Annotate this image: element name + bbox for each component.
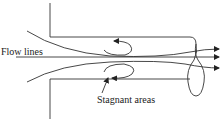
eddy-lower: [104, 64, 134, 78]
upper-wall: [50, 3, 196, 44]
stagnant-pointer: [102, 78, 108, 93]
eddy-upper: [104, 41, 132, 55]
flow-lines-label: Flow lines: [1, 46, 43, 57]
stagnant-areas-label: Stagnant areas: [97, 94, 155, 105]
flow-line-upper: [27, 31, 219, 57]
